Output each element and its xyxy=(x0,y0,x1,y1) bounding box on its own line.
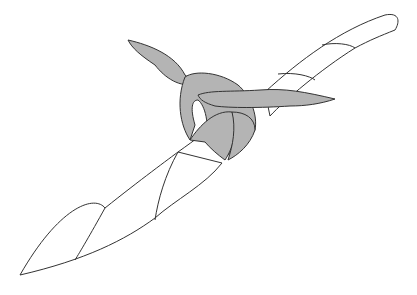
knot xyxy=(128,40,335,160)
tie-right-tail xyxy=(198,89,335,107)
tie-wrap-front xyxy=(190,112,235,160)
rope-lower-end xyxy=(20,152,222,275)
knot-illustration xyxy=(0,0,417,295)
